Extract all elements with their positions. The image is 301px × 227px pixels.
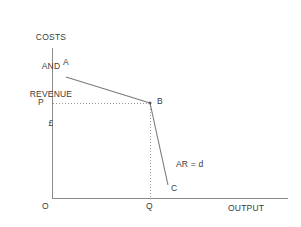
y-axis-title-line-2: AND [20, 62, 82, 72]
origin-label: O [42, 202, 49, 212]
point-label-c: C [171, 184, 177, 194]
y-axis-title-currency: £ [20, 119, 82, 129]
y-axis-title-line-3: REVENUE [20, 90, 82, 100]
demand-segment-bc [150, 103, 168, 185]
quantity-tick-label: Q [146, 202, 153, 212]
kinked-demand-curve-figure: COSTS AND REVENUE £ OUTPUT O P Q A B C A… [0, 0, 301, 227]
x-axis-title: OUTPUT [228, 204, 264, 214]
point-label-a: A [63, 58, 69, 68]
y-axis-title: COSTS AND REVENUE £ [20, 14, 82, 147]
y-axis-title-line-1: COSTS [20, 33, 82, 43]
curve-annotation-label: AR = d [176, 160, 203, 170]
price-tick-label: P [38, 98, 44, 108]
kink-point-b-marker [149, 102, 152, 105]
point-label-b: B [157, 97, 163, 107]
